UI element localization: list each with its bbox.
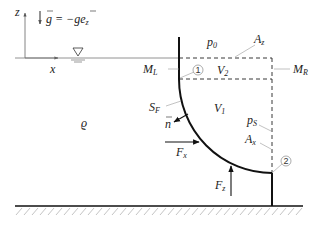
svg-text:SF: SF <box>149 100 160 115</box>
free-surface-icon <box>71 48 85 62</box>
pressure-ps-label: pS <box>246 113 271 131</box>
curved-wall <box>179 37 272 173</box>
svg-text:g = −gez: g = −gez <box>46 12 90 27</box>
svg-text:Ax: Ax <box>244 132 256 147</box>
hydrostatic-diagram: z x g = −gez p0 <box>0 0 318 230</box>
svg-text:n: n <box>165 117 171 131</box>
z-axis-label: z <box>14 5 20 19</box>
svg-text:Az: Az <box>253 32 265 47</box>
area-Ax-label: Ax <box>244 132 271 149</box>
marker-2: 2 <box>273 156 291 172</box>
normal-arrow-icon <box>174 114 188 122</box>
point-ML-label: ML <box>142 62 179 77</box>
pressure-p0-label: p0 <box>206 35 217 50</box>
x-axis-label: x <box>49 62 56 76</box>
volume-V2-label: V2 <box>217 63 228 78</box>
svg-text:pS: pS <box>246 113 257 128</box>
normal-vector: n <box>165 114 188 131</box>
ground-hatching <box>16 208 302 215</box>
density-label: ϱ <box>81 116 87 130</box>
surface-SF-label: SF <box>149 100 181 115</box>
gravity-eq: = −g <box>52 12 80 26</box>
force-Fz: Fz <box>214 166 231 196</box>
svg-text:1: 1 <box>195 65 200 75</box>
svg-text:2: 2 <box>283 156 288 166</box>
svg-text:MR: MR <box>292 62 308 77</box>
svg-text:ML: ML <box>142 62 158 77</box>
marker-1: 1 <box>180 65 203 78</box>
force-Fx: Fx <box>165 142 199 160</box>
svg-text:Fz: Fz <box>214 178 226 193</box>
area-Az-label: Az <box>235 32 265 57</box>
point-MR-label: MR <box>274 62 308 77</box>
gravity-label: g = −gez <box>40 11 96 27</box>
svg-text:Fx: Fx <box>175 145 187 160</box>
volume-V1-label: V1 <box>214 101 225 116</box>
